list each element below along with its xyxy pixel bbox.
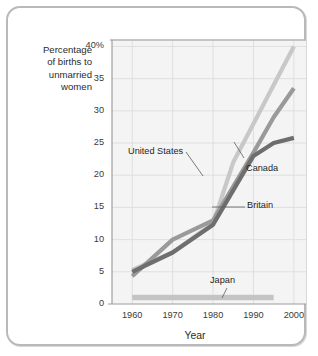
series-label-japan: Japan — [210, 275, 235, 285]
y-tick-label: 5 — [70, 266, 104, 276]
series-label-canada: Canada — [246, 163, 278, 173]
x-tick-label: 1970 — [153, 310, 193, 320]
y-tick-label: 35 — [70, 73, 104, 83]
x-tick-label: 1960 — [112, 310, 152, 320]
x-axis-title: Year — [150, 330, 240, 341]
series-label-united-states: United States — [128, 146, 183, 156]
y-tick-label: 15 — [70, 201, 104, 211]
y-tick-label: 30 — [70, 105, 104, 115]
y-tick-label: 20 — [70, 169, 104, 179]
y-tick-label: 0 — [70, 298, 104, 308]
x-tick-label: 2000 — [274, 310, 314, 320]
y-tick-label: 10 — [70, 234, 104, 244]
y-tick-label: 40% — [70, 40, 104, 50]
series-label-britain: Britain — [247, 200, 273, 210]
x-tick-label: 1980 — [193, 310, 233, 320]
x-tick-label: 1990 — [233, 310, 273, 320]
y-tick-label: 25 — [70, 137, 104, 147]
line-chart — [0, 0, 318, 356]
